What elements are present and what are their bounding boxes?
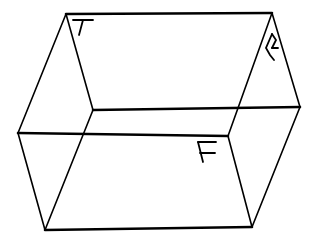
edge-front-left-vertical — [18, 133, 45, 230]
edge-back-left-vertical — [66, 14, 93, 110]
edge-middle-back — [93, 107, 300, 110]
box-diagram: T R F — [0, 0, 315, 244]
edge-bottom-front — [45, 227, 252, 230]
edge-lower-left-back — [45, 110, 93, 230]
edge-front-top — [18, 133, 228, 136]
edge-top-left — [18, 14, 66, 133]
edge-front-right-vertical — [228, 136, 252, 227]
edge-back-right-vertical — [272, 13, 300, 107]
label-front-glyph: F — [198, 142, 216, 162]
label-right-glyph: R — [266, 34, 278, 60]
label-front: F — [205, 151, 206, 152]
edge-top-right-front — [228, 13, 272, 136]
edge-lower-right-back — [252, 107, 300, 227]
label-top-glyph: T — [73, 20, 93, 35]
edge-top-back — [66, 13, 272, 14]
label-right: R — [270, 45, 271, 46]
